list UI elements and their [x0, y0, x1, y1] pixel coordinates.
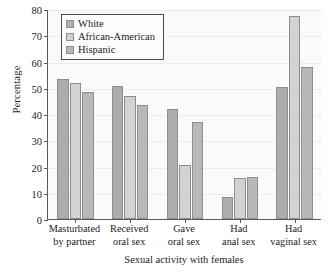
bar — [192, 122, 204, 219]
y-axis-tick-label: 30 — [32, 136, 43, 147]
y-axis-title: Percentage — [11, 30, 22, 150]
x-axis-tick-label-line: Masturbated — [49, 223, 100, 234]
x-axis-tick-label: Masturbatedby partner — [49, 223, 100, 248]
y-axis-tick-label: 60 — [32, 57, 43, 68]
legend-swatch-icon — [66, 33, 74, 41]
bar — [167, 109, 179, 219]
x-axis-tick-label-line: oral sex — [110, 236, 148, 249]
x-axis-tick-label: Hadanal sex — [222, 223, 255, 248]
bar — [276, 87, 288, 219]
bar-chart-figure: Percentage 01020304050607080 WhiteAfrica… — [0, 0, 331, 273]
bar — [247, 177, 259, 219]
bar — [234, 178, 246, 219]
legend-item-label: Hispanic — [78, 44, 115, 57]
legend-item: African-American — [66, 31, 155, 44]
x-axis-tick-label-line: vaginal sex — [270, 236, 317, 249]
y-axis-tick-label: 20 — [32, 162, 43, 173]
y-axis-tick — [44, 220, 48, 221]
bar — [124, 96, 136, 219]
x-axis-tick-label: Receivedoral sex — [110, 223, 148, 248]
bar — [57, 79, 69, 219]
bar — [289, 16, 301, 219]
bar — [301, 67, 313, 219]
bar — [222, 197, 234, 219]
plot-area: 01020304050607080 WhiteAfrican-AmericanH… — [47, 10, 321, 220]
legend-item: White — [66, 18, 155, 31]
y-axis-tick-label: 80 — [32, 5, 43, 16]
x-axis-tick-label-line: Had — [230, 223, 247, 234]
legend-swatch-icon — [66, 46, 74, 54]
legend-swatch-icon — [66, 20, 74, 28]
x-axis-tick-label-line: anal sex — [222, 236, 255, 249]
y-axis-tick-label: 40 — [32, 110, 43, 121]
x-axis-tick-label-line: Received — [110, 223, 148, 234]
x-axis-tick-label: Gaveoral sex — [168, 223, 200, 248]
x-axis-tick-label-line: oral sex — [168, 236, 200, 249]
y-axis-tick-label: 10 — [32, 188, 43, 199]
x-axis-title: Sexual activity with females — [47, 254, 321, 265]
legend: WhiteAfrican-AmericanHispanic — [61, 14, 164, 60]
legend-item-label: White — [78, 18, 104, 31]
bar — [112, 86, 124, 219]
x-axis-tick-label-line: Had — [285, 223, 302, 234]
x-axis-tick-label-line: by partner — [49, 236, 100, 249]
y-axis-tick-label: 50 — [32, 83, 43, 94]
bar — [179, 165, 191, 219]
bar — [137, 105, 149, 219]
x-axis-tick-label-line: Gave — [173, 223, 195, 234]
x-axis-tick-labels: Masturbatedby partnerReceivedoral sexGav… — [47, 223, 321, 255]
y-axis-tick-label: 0 — [37, 215, 42, 226]
x-axis-tick-label: Hadvaginal sex — [270, 223, 317, 248]
y-axis-tick-label: 70 — [32, 31, 43, 42]
legend-item-label: African-American — [78, 31, 155, 44]
bar — [82, 92, 94, 219]
legend-item: Hispanic — [66, 44, 155, 57]
bar — [70, 83, 82, 219]
